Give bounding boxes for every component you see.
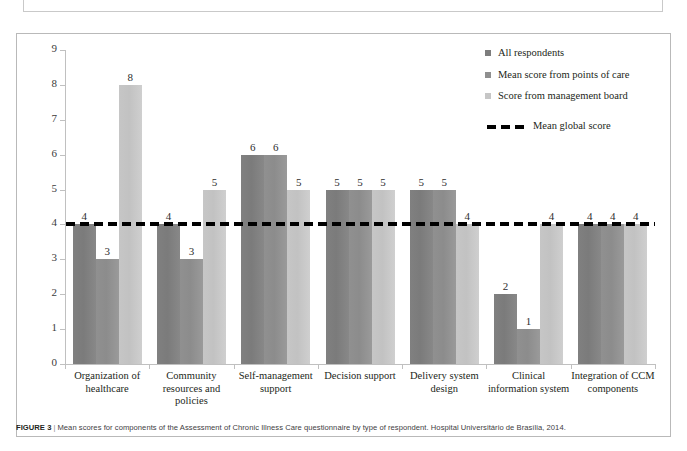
figure-caption: FIGURE 3|Mean scores for components of t…: [16, 423, 671, 433]
y-axis-tick-label: 9: [33, 42, 57, 54]
x-axis-tick: [65, 364, 66, 369]
y-axis-tick: [60, 155, 66, 156]
bar[interactable]: [540, 224, 563, 364]
bar-group: 438: [73, 50, 142, 364]
dashed-line-icon: [487, 125, 527, 129]
y-axis-line: [65, 50, 66, 364]
y-axis-tick-label: 8: [33, 77, 57, 89]
x-axis-category-label: Self-management support: [234, 370, 318, 395]
bar-value-label: 4: [601, 210, 624, 222]
bar-value-label: 5: [349, 176, 372, 188]
x-axis-tick: [402, 364, 403, 369]
y-axis-tick-label: 0: [33, 356, 57, 368]
legend-swatch-icon: [485, 93, 491, 99]
bar-value-label: 8: [119, 71, 142, 83]
x-axis-tick: [149, 364, 150, 369]
bar-group: 665: [241, 50, 310, 364]
bar[interactable]: [264, 155, 287, 364]
y-axis-tick-label: 5: [33, 182, 57, 194]
bar-group: 435: [157, 50, 226, 364]
x-axis-category-label: Community resources and policies: [149, 370, 233, 408]
y-axis-tick: [60, 294, 66, 295]
x-axis-tick: [234, 364, 235, 369]
bar[interactable]: [517, 329, 540, 364]
previous-figure-caption-text: Brasília, 2014.: [31, 0, 80, 1]
bar-value-label: 5: [326, 176, 349, 188]
y-axis-tick-label: 6: [33, 147, 57, 159]
bar[interactable]: [410, 190, 433, 364]
bar-value-label: 3: [180, 245, 203, 257]
legend-swatch-icon: [485, 72, 491, 78]
x-axis-tick: [655, 364, 656, 369]
bar[interactable]: [578, 224, 601, 364]
x-axis-tick: [486, 364, 487, 369]
y-axis-tick-label: 1: [33, 321, 57, 333]
x-axis-line: [65, 364, 655, 365]
bar-value-label: 4: [540, 210, 563, 222]
legend-item-label: Mean global score: [533, 120, 611, 131]
bar[interactable]: [157, 224, 180, 364]
legend-swatch-icon: [485, 50, 491, 56]
legend-item[interactable]: Score from management board: [485, 90, 665, 103]
y-axis-tick: [60, 85, 66, 86]
previous-figure-caption-box: [23, 0, 663, 12]
x-axis-category-label: Integration of CCM components: [571, 370, 655, 395]
x-axis-category-label: Clinical information system: [486, 370, 570, 395]
bar-group: 555: [326, 50, 395, 364]
y-axis-tick: [60, 50, 66, 51]
y-axis-tick: [60, 120, 66, 121]
bar-value-label: 4: [624, 210, 647, 222]
figure-caption-label: FIGURE 3: [16, 423, 51, 432]
bar[interactable]: [287, 190, 310, 364]
bar-group: 554: [410, 50, 479, 364]
x-axis-tick: [571, 364, 572, 369]
bar-value-label: 6: [241, 141, 264, 153]
x-axis-tick: [318, 364, 319, 369]
legend-item-label: Score from management board: [498, 90, 628, 101]
bar-value-label: 3: [96, 245, 119, 257]
chart-plot-area: 0123456789 438435665555554214444 Organiz…: [17, 34, 672, 404]
bar[interactable]: [433, 190, 456, 364]
bar[interactable]: [241, 155, 264, 364]
bar[interactable]: [349, 190, 372, 364]
bar-value-label: 4: [157, 210, 180, 222]
bar[interactable]: [372, 190, 395, 364]
chart-legend: All respondentsMean score from points of…: [485, 47, 665, 131]
bar[interactable]: [73, 224, 96, 364]
legend-item[interactable]: All respondents: [485, 47, 665, 60]
bar-value-label: 1: [517, 315, 540, 327]
bar-value-label: 5: [203, 176, 226, 188]
bar[interactable]: [601, 224, 624, 364]
y-axis-tick: [60, 329, 66, 330]
legend-item-label: Mean score from points of care: [498, 69, 630, 80]
bar[interactable]: [180, 259, 203, 364]
bar[interactable]: [326, 190, 349, 364]
legend-item-label: All respondents: [498, 47, 564, 58]
bar-value-label: 5: [287, 176, 310, 188]
x-axis-category-label: Decision support: [318, 370, 402, 383]
legend-item[interactable]: Mean score from points of care: [485, 69, 665, 82]
bar-value-label: 4: [578, 210, 601, 222]
x-axis-category-label: Delivery system design: [402, 370, 486, 395]
bar[interactable]: [624, 224, 647, 364]
y-axis-tick: [60, 190, 66, 191]
y-axis-tick-label: 7: [33, 112, 57, 124]
x-axis-category-label: Organization of healthcare: [65, 370, 149, 395]
bar-value-label: 2: [494, 280, 517, 292]
bar[interactable]: [456, 224, 479, 364]
bar-value-label: 5: [372, 176, 395, 188]
mean-global-score-line: [66, 222, 655, 226]
bar[interactable]: [203, 190, 226, 364]
y-axis-tick-label: 3: [33, 251, 57, 263]
bar-value-label: 5: [433, 176, 456, 188]
bar[interactable]: [96, 259, 119, 364]
y-axis-tick-label: 2: [33, 286, 57, 298]
bar-value-label: 6: [264, 141, 287, 153]
bar-value-label: 4: [456, 210, 479, 222]
figure-caption-text: Mean scores for components of the Assess…: [57, 423, 565, 432]
bar-value-label: 5: [410, 176, 433, 188]
bar[interactable]: [494, 294, 517, 364]
figure-frame: 0123456789 438435665555554214444 Organiz…: [16, 33, 671, 437]
y-axis-tick: [60, 259, 66, 260]
legend-item-mean-global-score[interactable]: Mean global score: [485, 120, 665, 131]
